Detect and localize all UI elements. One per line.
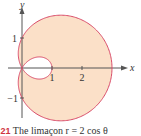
figure-caption: .21 The limaçon r = 2 cos θ (0, 125, 108, 136)
caption-text: The limaçon r = 2 cos θ (13, 125, 108, 136)
y-tick-label-1: 1 (12, 33, 17, 44)
x-tick-label-1: 1 (50, 72, 55, 83)
y-tick-label-neg1: −1 (7, 93, 18, 104)
x-axis-arrow-icon (121, 66, 128, 71)
x-axis-label: x (129, 62, 135, 73)
x-tick-label-2: 2 (80, 72, 85, 83)
figure-number: .21 (0, 126, 11, 136)
limacon-plot: 1 2 1 −1 x y (0, 0, 141, 124)
y-axis-label: y (19, 0, 25, 10)
